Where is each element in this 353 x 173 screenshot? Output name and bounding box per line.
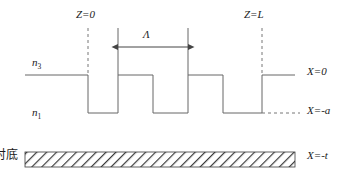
label-substrate: 衬底	[0, 149, 18, 161]
label-index-guide: n1	[32, 107, 41, 118]
label-z-length: Z=L	[244, 9, 264, 20]
subscript-1: 1	[38, 112, 42, 121]
substrate-hatch-block	[25, 152, 295, 167]
label-x-minus-a: X=-a	[307, 105, 330, 116]
label-index-cladding: n3	[32, 57, 41, 68]
label-z-origin: Z=0	[76, 9, 95, 20]
diagram-canvas	[0, 0, 353, 173]
grating-profile-rise-2	[188, 75, 223, 113]
grating-profile-tooth-2	[153, 75, 188, 113]
subscript-3: 3	[38, 62, 42, 71]
label-grating-period: Λ	[143, 29, 150, 40]
label-x-minus-t: X=-t	[307, 150, 328, 161]
grating-profile-rise-3	[262, 75, 295, 113]
label-x-zero: X=0	[307, 66, 327, 77]
grating-profile-tooth-3	[223, 75, 262, 113]
grating-profile-tooth-1	[88, 75, 118, 113]
grating-profile-rise-1	[118, 75, 153, 113]
grating-diagram-figure: Z=0 Z=L Λ n3 n1 X=0 X=-a X=-t 衬底	[0, 0, 353, 173]
